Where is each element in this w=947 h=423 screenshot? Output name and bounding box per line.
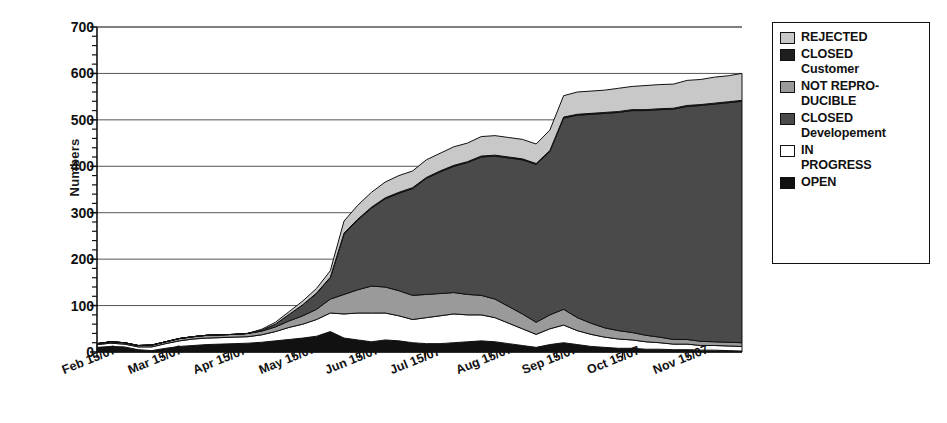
legend-item[interactable]: NOT REPRO-DUCIBLE bbox=[780, 79, 923, 110]
legend-item-label-line2: DUCIBLE bbox=[801, 94, 879, 110]
legend-item[interactable]: CLOSEDCustomer bbox=[780, 47, 923, 78]
legend-item-label: OPEN bbox=[801, 175, 836, 191]
legend-swatch-open bbox=[780, 177, 795, 189]
legend-item-label-line2: Customer bbox=[801, 62, 859, 78]
chart-legend: REJECTEDCLOSEDCustomerNOT REPRO-DUCIBLEC… bbox=[772, 22, 930, 264]
legend-item[interactable]: REJECTED bbox=[780, 30, 923, 46]
stacked-area-chart: Numbers 7006005004003002001000 Feb 15/07… bbox=[0, 0, 947, 423]
legend-item[interactable]: INPROGRESS bbox=[780, 143, 923, 174]
legend-swatch-closed-customer bbox=[780, 49, 795, 61]
legend-swatch-not-reproducible bbox=[780, 81, 795, 93]
legend-item[interactable]: CLOSEDDevelopement bbox=[780, 111, 923, 142]
legend-swatch-in-progress bbox=[780, 145, 795, 157]
legend-swatch-rejected bbox=[780, 32, 795, 44]
legend-swatch-closed-developement bbox=[780, 113, 795, 125]
legend-item-label: INPROGRESS bbox=[801, 143, 872, 174]
legend-item-label-line2: Developement bbox=[801, 126, 886, 142]
legend-item[interactable]: OPEN bbox=[780, 175, 923, 191]
legend-item-label: NOT REPRO-DUCIBLE bbox=[801, 79, 879, 110]
legend-item-label: REJECTED bbox=[801, 30, 867, 46]
legend-item-label: CLOSEDDevelopement bbox=[801, 111, 886, 142]
legend-item-label-line2: PROGRESS bbox=[801, 158, 872, 174]
legend-item-label: CLOSEDCustomer bbox=[801, 47, 859, 78]
